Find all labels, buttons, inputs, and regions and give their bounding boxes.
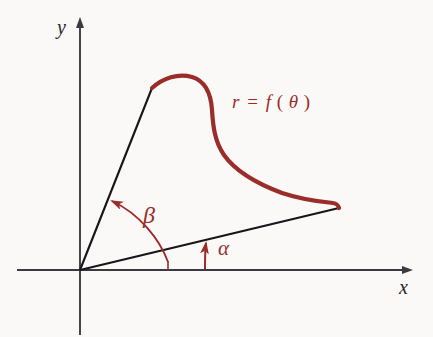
polar-region-diagram: y x β α r = f ( θ ) <box>0 0 433 337</box>
alpha-ray <box>80 208 339 270</box>
curve-label-theta: θ <box>289 91 299 112</box>
y-axis-label: y <box>57 17 66 37</box>
curve-label-close-paren: ) <box>304 91 311 112</box>
curve-label-equals: = <box>245 91 260 112</box>
x-axis-label: x <box>399 277 408 297</box>
alpha-angle-arc <box>205 243 206 269</box>
alpha-angle-label: α <box>218 238 229 259</box>
curve-label-r: r <box>232 91 240 112</box>
diagram-canvas <box>0 0 433 337</box>
curve-equation-label: r = f ( θ ) <box>232 92 311 111</box>
beta-ray <box>80 88 152 270</box>
beta-angle-arc <box>112 201 168 262</box>
curve-label-open-paren: ( <box>277 91 284 112</box>
curve-label-f: f <box>266 91 272 112</box>
beta-angle-label: β <box>143 203 155 227</box>
